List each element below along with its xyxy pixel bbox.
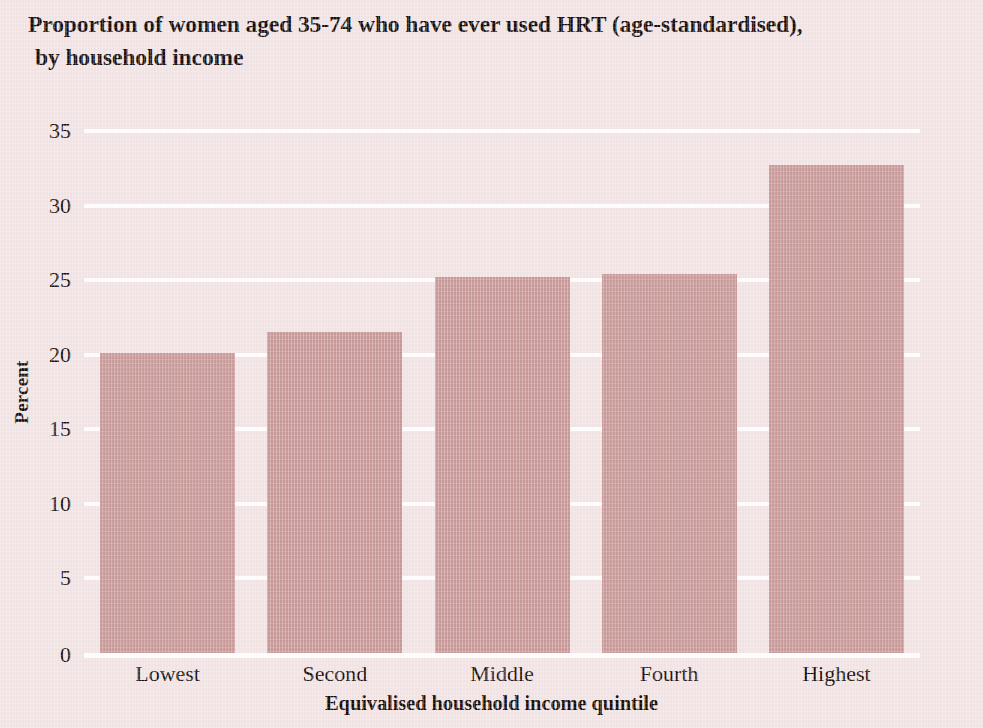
y-tick-label: 20 [49,344,71,366]
bar-middle [435,277,570,653]
y-tick-label: 35 [49,120,71,142]
x-axis-label: Equivalised household income quintile [0,692,983,715]
bar-lowest [100,353,235,653]
x-tick-label: Lowest [135,663,200,685]
chart-title-line-2: by household income [28,41,928,74]
bar-highest [769,165,904,653]
y-tick-label: 25 [49,269,71,291]
chart-title-line-1: Proportion of women aged 35-74 who have … [28,11,803,37]
y-tick-label: 30 [49,195,71,217]
chart-title: Proportion of women aged 35-74 who have … [28,8,928,75]
y-tick-label: 15 [49,418,71,440]
bar-second [267,332,402,653]
axis-baseline: 0 [84,653,920,658]
x-tick-label: Second [302,663,367,685]
x-tick-label: Fourth [640,663,699,685]
gridline: 35 [84,129,920,133]
bar-fourth [602,274,737,653]
x-tick-label: Highest [802,663,870,685]
y-axis-label: Percent [11,360,33,423]
x-tick-label: Middle [470,663,534,685]
plot-area: 05101520253035 LowestSecondMiddleFourthH… [84,131,920,653]
y-tick-label: 0 [60,644,71,666]
bar-chart-figure: Proportion of women aged 35-74 who have … [0,0,983,728]
y-tick-label: 5 [60,567,71,589]
y-tick-label: 10 [49,493,71,515]
